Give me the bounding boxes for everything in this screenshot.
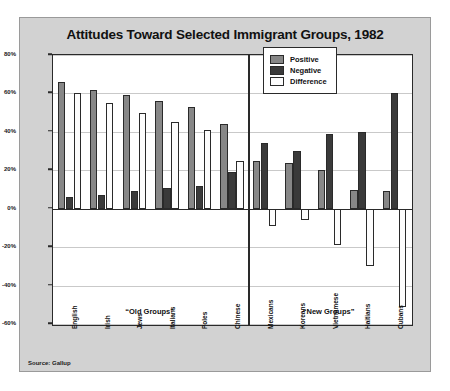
legend-swatch-positive [270, 55, 284, 64]
legend-label-negative: Negative [290, 66, 321, 75]
bar-positive [350, 190, 357, 209]
section-label: “Old Groups” [125, 307, 174, 316]
y-axis-tick-mark [48, 284, 52, 286]
legend-item-negative: Negative [270, 66, 327, 75]
legend-label-positive: Positive [290, 55, 319, 64]
source-note: Source: Gallup [28, 360, 71, 366]
bar-difference [204, 130, 211, 209]
bar-difference [269, 209, 276, 226]
bar-negative [163, 188, 170, 209]
bar-group [53, 55, 86, 325]
bar-positive [220, 124, 227, 209]
bar-negative [66, 197, 73, 209]
chart-figure: Attitudes Toward Selected Immigrant Grou… [19, 17, 431, 372]
bar-negative [98, 195, 105, 208]
y-axis-tick-label: -20% [0, 243, 16, 249]
chart-title: Attitudes Toward Selected Immigrant Grou… [20, 27, 430, 42]
bar-difference [74, 93, 81, 208]
y-axis-tick-mark [48, 322, 52, 324]
x-axis-label: English [71, 306, 78, 329]
bar-difference [399, 209, 406, 307]
bar-group [281, 55, 314, 325]
bar-negative [293, 151, 300, 209]
bar-negative [131, 191, 138, 208]
bar-negative [228, 172, 235, 209]
y-axis-tick-mark [48, 207, 52, 209]
y-axis-tick-mark [48, 53, 52, 55]
bar-difference [366, 209, 373, 267]
x-axis-label: Haitians [364, 304, 371, 329]
y-axis-tick-mark [48, 169, 52, 171]
bar-positive [253, 161, 260, 209]
x-axis-label: Irish [104, 315, 111, 329]
y-axis-tick-label: 40% [0, 128, 16, 134]
legend-swatch-negative [270, 66, 284, 75]
bar-positive [383, 191, 390, 208]
y-axis-tick-mark [48, 245, 52, 247]
bar-difference [171, 122, 178, 208]
bar-positive [90, 90, 97, 209]
bar-group [346, 55, 379, 325]
bar-positive [155, 101, 162, 209]
y-axis-tick-label: 80% [0, 51, 16, 57]
bar-difference [236, 161, 243, 209]
legend-item-positive: Positive [270, 55, 327, 64]
bar-negative [196, 186, 203, 209]
bar-group [183, 55, 216, 325]
bar-positive [58, 82, 65, 209]
legend-swatch-difference [270, 77, 284, 86]
bar-group [378, 55, 411, 325]
section-label: “New Groups” [303, 307, 355, 316]
bar-difference [301, 209, 308, 221]
bar-group [118, 55, 151, 325]
y-axis-tick-label: -60% [0, 320, 16, 326]
bar-group [248, 55, 281, 325]
bar-group [151, 55, 184, 325]
y-axis-tick-mark [48, 130, 52, 132]
y-axis-tick-mark [48, 92, 52, 94]
plot-inner [53, 55, 412, 325]
section-divider [248, 55, 250, 325]
x-axis-label: Chinese [234, 304, 241, 329]
bar-positive [318, 170, 325, 208]
y-axis-tick-label: 20% [0, 166, 16, 172]
bar-group [216, 55, 249, 325]
bar-difference [139, 113, 146, 209]
chart-legend: Positive Negative Difference [263, 47, 337, 94]
x-axis-label: Poles [201, 312, 208, 329]
y-axis-tick-label: 60% [0, 89, 16, 95]
bar-difference [106, 103, 113, 209]
bar-negative [391, 93, 398, 208]
legend-item-difference: Difference [270, 77, 327, 86]
plot-area [52, 54, 413, 326]
bar-negative [326, 134, 333, 209]
bar-group [86, 55, 119, 325]
bar-difference [334, 209, 341, 246]
bar-group [313, 55, 346, 325]
bar-negative [261, 143, 268, 208]
y-axis-tick-label: -40% [0, 282, 16, 288]
legend-label-difference: Difference [290, 77, 327, 86]
x-axis-label: Mexicans [267, 300, 274, 329]
bar-negative [358, 132, 365, 209]
x-axis-label: Cubans [397, 305, 404, 329]
bar-positive [188, 107, 195, 209]
y-axis-tick-label: 0% [0, 205, 16, 211]
bar-positive [285, 163, 292, 209]
bar-positive [123, 95, 130, 208]
